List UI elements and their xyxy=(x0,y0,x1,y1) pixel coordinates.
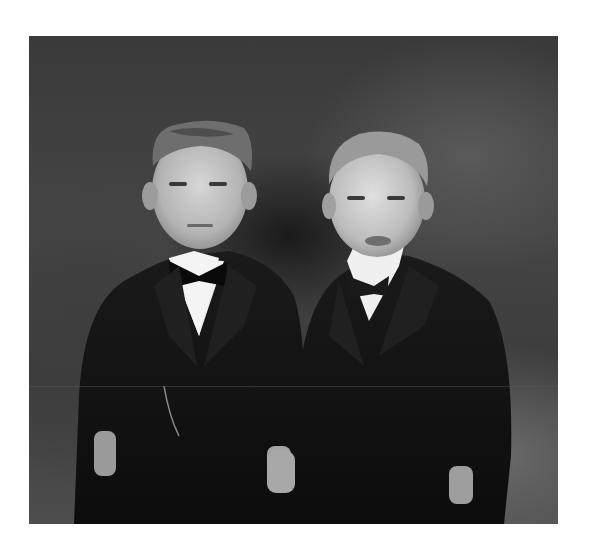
portrait-photograph xyxy=(29,36,558,524)
photo-content xyxy=(29,36,558,524)
right-man xyxy=(267,132,511,524)
